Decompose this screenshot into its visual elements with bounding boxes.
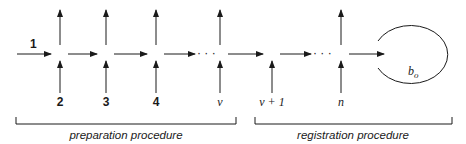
- node-label: ν: [217, 95, 223, 109]
- node-label: 4: [153, 95, 160, 109]
- node-label: ν + 1: [259, 95, 284, 109]
- loop-b0: bo: [378, 26, 448, 84]
- bracket-registration: registration procedure: [255, 117, 452, 141]
- node-2: 2: [57, 10, 64, 109]
- node-v-plus-1: ν + 1: [259, 61, 284, 109]
- bracket-label: preparation procedure: [68, 129, 182, 141]
- node-v: ν: [217, 10, 223, 109]
- flow-diagram: 1 · · · · · · 2 3 4 ν ν + 1: [0, 0, 466, 144]
- node-n: n: [338, 10, 344, 109]
- input-label: 1: [30, 37, 37, 51]
- node-label: n: [338, 95, 344, 109]
- ellipsis-2: · · ·: [313, 46, 332, 60]
- loop-label: bo: [408, 64, 419, 80]
- node-label: 3: [103, 95, 110, 109]
- node-label: 2: [57, 95, 64, 109]
- input-arrow: 1: [17, 37, 51, 54]
- node-4: 4: [153, 10, 160, 109]
- bracket-preparation: preparation procedure: [16, 117, 236, 141]
- ellipsis-1: · · ·: [197, 46, 216, 60]
- bracket-label: registration procedure: [297, 129, 409, 141]
- node-3: 3: [103, 10, 110, 109]
- chain-arrows: · · · · · ·: [68, 46, 384, 60]
